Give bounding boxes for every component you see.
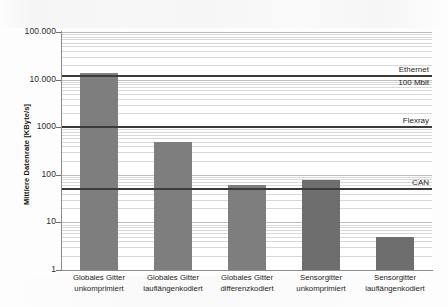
y-tick-label: 100 (2, 170, 56, 179)
reference-label-ethernet: Ethernet (399, 65, 429, 74)
scan-artifact-top (0, 0, 448, 28)
bar-1 (80, 73, 118, 270)
y-tick-label: 100.000 (2, 27, 56, 36)
x-category-label-line2: unkomprimiert (284, 284, 358, 295)
x-category-label-line2: lauflängenkodiert (358, 284, 432, 295)
gridline-minor (62, 65, 432, 66)
bar-3 (228, 185, 266, 270)
x-axis-line (61, 270, 433, 271)
gridline-minor (62, 37, 432, 38)
y-tick-label: 10.000 (2, 75, 56, 84)
bar-5 (376, 237, 414, 270)
x-category-label-3: Globales Gitterdifferenzkodiert (210, 273, 284, 294)
bar-chart-figure: Mittlere Datenrate [KByte/s] 100.00010.0… (0, 0, 448, 307)
y-tick-label: 10 (2, 217, 56, 226)
x-category-label-line2: differenzkodiert (210, 284, 284, 295)
x-category-label-line1: Sensorgitter (374, 273, 416, 282)
x-category-label-line1: Sensorgitter (300, 273, 342, 282)
y-tick-label: 1 (2, 265, 56, 274)
x-category-label-line1: Globales Gitter (73, 273, 125, 282)
bar-2 (154, 142, 192, 270)
y-axis-line (61, 31, 62, 271)
reference-label-can: CAN (412, 178, 429, 187)
x-category-label-line1: Globales Gitter (147, 273, 199, 282)
gridline-minor (62, 51, 432, 52)
x-category-label-4: Sensorgitterunkomprimiert (284, 273, 358, 294)
x-axis-category-labels: Globales GitterunkomprimiertGlobales Git… (62, 273, 432, 303)
reference-line-flexray (62, 126, 432, 128)
reference-label-flexray: Flexray (403, 116, 429, 125)
bar-4 (302, 180, 340, 270)
gridline-minor (62, 43, 432, 44)
reference-label-100-mbit: 100 Mbit (398, 78, 429, 87)
x-category-label-5: Sensorgitterlauflängenkodiert (358, 273, 432, 294)
x-category-label-1: Globales Gitterunkomprimiert (62, 273, 136, 294)
gridline-decade (62, 32, 432, 33)
reference-line-can (62, 188, 432, 190)
gridline-minor (62, 46, 432, 47)
reference-line-ethernet (62, 75, 432, 77)
gridline-minor (62, 57, 432, 58)
x-category-label-line2: unkomprimiert (62, 284, 136, 295)
y-tick-label: 1000 (2, 122, 56, 131)
gridline-minor (62, 34, 432, 35)
plot-area: Ethernet100 MbitFlexrayCAN (62, 32, 432, 270)
x-category-label-2: Globales Gitterlauflängenkodiert (136, 273, 210, 294)
x-category-label-line2: lauflängenkodiert (136, 284, 210, 295)
x-category-label-line1: Globales Gitter (221, 273, 273, 282)
gridline-minor (62, 39, 432, 40)
y-axis-ticks: 100.00010.0001000100101 (0, 0, 56, 307)
